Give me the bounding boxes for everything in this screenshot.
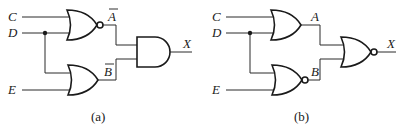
input-label-c: C bbox=[212, 9, 221, 24]
output-label-x: X bbox=[182, 36, 192, 51]
nor-gate-1 bbox=[67, 10, 97, 40]
nor-gate-2 bbox=[272, 65, 302, 95]
caption-b: (b) bbox=[294, 109, 309, 124]
label-b-bar: B bbox=[104, 64, 112, 79]
inversion-bubble bbox=[97, 22, 103, 28]
inversion-bubble bbox=[371, 49, 377, 55]
input-label-e: E bbox=[211, 82, 220, 97]
label-a: A bbox=[310, 9, 319, 24]
inversion-bubble bbox=[302, 77, 308, 83]
label-a-bar: A bbox=[107, 9, 116, 24]
circuit-a: C D E A B X (a) bbox=[7, 9, 192, 124]
wire-a-out bbox=[103, 25, 140, 45]
input-label-d: D bbox=[211, 25, 222, 40]
caption-a: (a) bbox=[91, 109, 105, 124]
or-gate-2 bbox=[68, 65, 98, 95]
logic-diagrams: C D E A B X (a) C D E bbox=[0, 0, 408, 127]
and-gate bbox=[137, 37, 170, 67]
input-label-d: D bbox=[7, 25, 18, 40]
junction-dot bbox=[248, 31, 252, 35]
wire-d-branch bbox=[250, 33, 274, 73]
input-label-c: C bbox=[8, 9, 17, 24]
wire-d-branch bbox=[45, 33, 70, 73]
nor-gate-final bbox=[341, 37, 371, 67]
circuit-b: C D E A B X (b) bbox=[211, 9, 396, 124]
junction-dot bbox=[43, 31, 47, 35]
wire-a-out bbox=[301, 25, 344, 45]
label-b: B bbox=[311, 64, 319, 79]
input-label-e: E bbox=[7, 82, 16, 97]
or-gate-1 bbox=[271, 10, 301, 40]
output-label-x: X bbox=[386, 36, 396, 51]
